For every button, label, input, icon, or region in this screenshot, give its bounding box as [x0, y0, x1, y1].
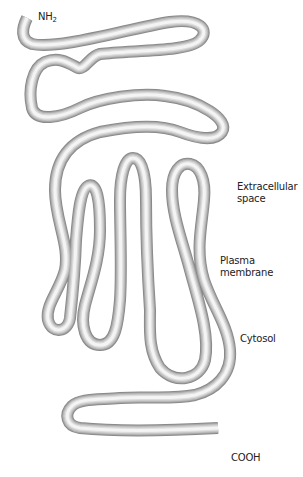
c-terminus-label: COOH [231, 452, 260, 464]
n-terminus-label: NH2 [38, 11, 57, 23]
nh-text: NH [38, 11, 53, 22]
extracellular-line1: Extracellular [237, 181, 297, 193]
membrane-line2: membrane [220, 267, 273, 279]
serpentine-protein-chain [0, 0, 303, 477]
extracellular-space-label: Extracellular space [237, 181, 297, 205]
extracellular-line2: space [237, 193, 297, 205]
protein-diagram: NH2 Extracellular space Plasma membrane … [0, 0, 303, 477]
membrane-line1: Plasma [220, 255, 273, 267]
subscript-2: 2 [53, 16, 57, 24]
plasma-membrane-label: Plasma membrane [220, 255, 273, 279]
cytosol-label: Cytosol [240, 333, 276, 345]
